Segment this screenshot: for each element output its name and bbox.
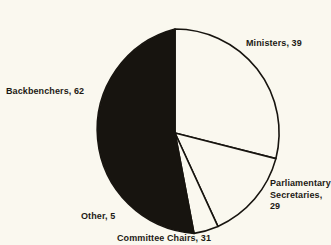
pie-label-parliamentary-secretaries: Parliamentary Secretaries, 29 <box>270 178 328 213</box>
pie-label-parliamentary-secretaries-line1: Parliamentary <box>270 178 331 188</box>
pie-label-ministers: Ministers, 39 <box>246 38 302 50</box>
pie-label-other: Other, 5 <box>81 211 115 223</box>
pie-slices <box>97 29 279 233</box>
pie-label-backbenchers: Backbenchers, 62 <box>6 86 84 98</box>
pie-label-parliamentary-secretaries-line2: Secretaries, 29 <box>270 190 322 212</box>
pie-label-bottom-cropped: Committee Chairs, 31 <box>0 233 328 245</box>
